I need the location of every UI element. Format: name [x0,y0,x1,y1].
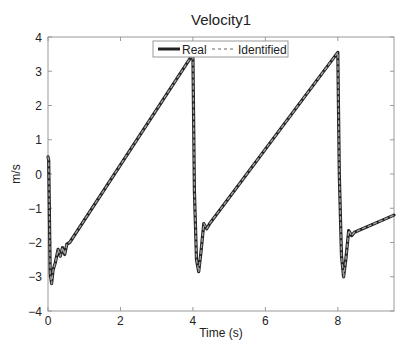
y-tick-label: 1 [35,133,42,147]
x-tick-label: 6 [262,314,269,328]
x-tick-label: 0 [45,314,52,328]
y-tick-label: 0 [35,168,42,182]
legend-identified-label: Identified [238,43,287,57]
y-tick-label: −2 [28,236,42,250]
y-tick-label: 3 [35,65,42,79]
legend: Real Identified [153,41,288,57]
x-tick-label: 8 [334,314,341,328]
y-tick-label: −1 [28,202,42,216]
y-axis-label: m/s [9,164,23,183]
chart-figure: Velocity1 −4−3−2−101234 02468 Time (s) m… [0,0,410,356]
x-tick-label: 2 [117,314,124,328]
y-tick-label: 4 [35,31,42,45]
y-tick-label: −4 [28,305,42,319]
y-tick-label: 2 [35,99,42,113]
x-tick-label: 4 [190,314,197,328]
y-tick-label: −3 [28,270,42,284]
legend-real-label: Real [182,43,207,57]
chart-title: Velocity1 [191,11,251,28]
x-axis-label: Time (s) [199,326,243,340]
